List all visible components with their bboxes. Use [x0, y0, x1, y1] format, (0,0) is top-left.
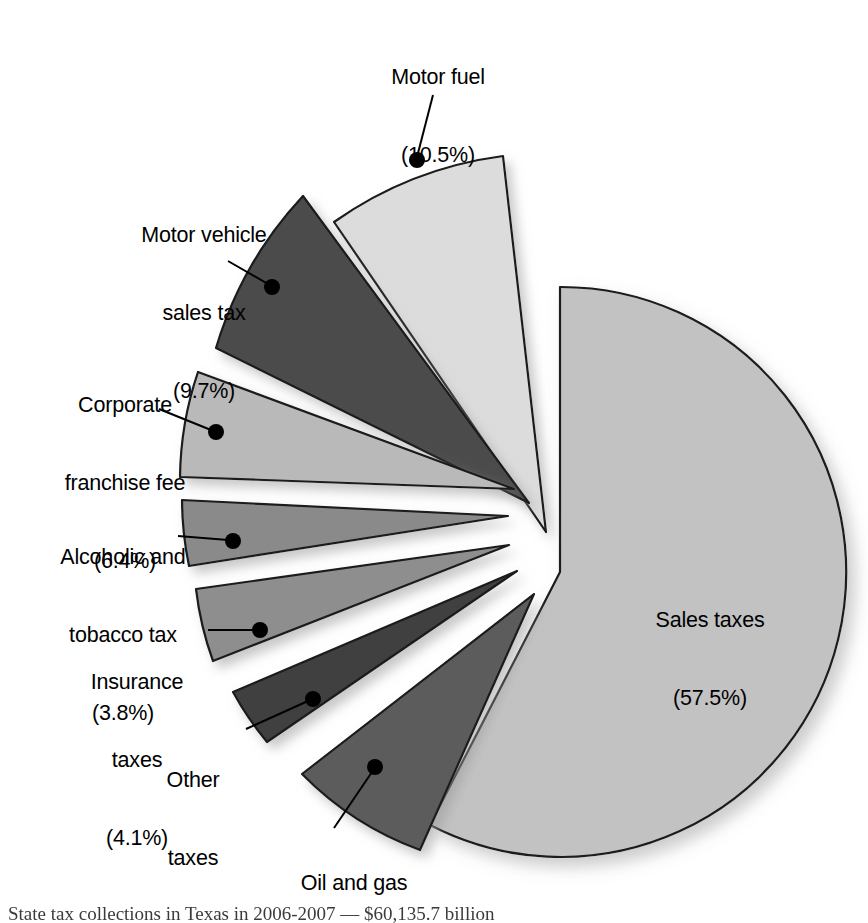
- figure-caption-text: State tax collections in Texas in 2006-2…: [8, 903, 494, 923]
- leader-dot-other-taxes: [305, 691, 321, 707]
- label-sales-taxes-line2: (57.5%): [620, 685, 800, 711]
- figure-caption-clipped: State tax collections in Texas in 2006-2…: [0, 901, 868, 923]
- label-other-line2: taxes: [138, 845, 248, 871]
- label-sales-taxes-line1: Sales taxes: [620, 607, 800, 633]
- label-corporate-line1: Corporate: [30, 392, 220, 418]
- label-insurance-line1: Insurance: [62, 669, 212, 695]
- label-oil-gas-line1: Oil and gas: [256, 870, 452, 896]
- label-motor-vehicle-line2: sales tax: [104, 300, 304, 326]
- pie-chart-figure: Motor fuel (10.5%) Motor vehicle sales t…: [0, 0, 868, 923]
- leader-dot-insurance-taxes: [252, 622, 268, 638]
- label-alcoholic-line1: Alcoholic and: [28, 544, 218, 570]
- label-other-taxes: Other taxes (2.5%): [138, 715, 248, 923]
- label-motor-fuel: Motor fuel (10.5%): [358, 12, 518, 220]
- label-sales-taxes: Sales taxes (57.5%): [620, 555, 800, 763]
- label-motor-fuel-line2: (10.5%): [358, 142, 518, 168]
- label-motor-fuel-line1: Motor fuel: [358, 64, 518, 90]
- label-motor-vehicle-line1: Motor vehicle: [104, 222, 304, 248]
- leader-dot-alcoholic-and-tobacco-tax: [225, 533, 241, 549]
- leader-dot-oil-and-gas-severance-tax: [367, 759, 383, 775]
- label-other-line1: Other: [138, 767, 248, 793]
